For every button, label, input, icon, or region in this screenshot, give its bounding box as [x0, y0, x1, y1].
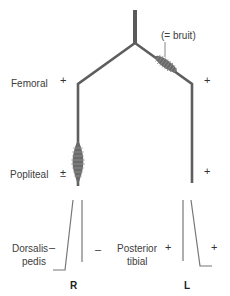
- bruit-annotation: (= bruit): [161, 30, 196, 41]
- label-popliteal: Popliteal: [10, 169, 48, 180]
- label-dorsalis-pedis-2: pedis: [22, 256, 46, 267]
- label-dorsalis-pedis-1: Dorsalis: [12, 243, 48, 254]
- right-dorsalis-pedis-pulse: –: [49, 242, 55, 253]
- left-dorsalis-pedis-vessel: [191, 200, 212, 266]
- label-posterior-tibial-1: Posterior: [117, 243, 157, 254]
- left-femoral-pulse: +: [204, 75, 210, 86]
- side-label-right: R: [70, 280, 77, 291]
- right-leg-artery: [78, 43, 135, 186]
- left-posterior-tibial-pulse: +: [165, 242, 171, 253]
- right-femoral-pulse: +: [60, 75, 66, 86]
- label-posterior-tibial-2: tibial: [127, 256, 148, 267]
- iliac-bruit-stenosis: [153, 52, 180, 75]
- label-femoral: Femoral: [11, 78, 48, 89]
- side-label-left: L: [184, 280, 190, 291]
- right-dorsalis-pedis-vessel: [53, 200, 73, 270]
- right-posterior-tibial-pulse: –: [95, 244, 101, 255]
- right-popliteal-pulse: ±: [60, 168, 66, 179]
- left-dorsalis-pedis-pulse: +: [211, 242, 217, 253]
- popliteal-stenosis: [71, 140, 85, 186]
- left-popliteal-pulse: +: [204, 166, 210, 177]
